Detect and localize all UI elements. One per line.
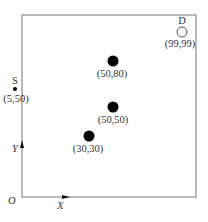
node-50-50 — [108, 102, 119, 113]
node-30-30-label: (30,30) — [73, 143, 104, 155]
destination-coord-label: (99,99) — [165, 38, 196, 50]
node-30-30 — [84, 131, 95, 142]
source-node — [13, 87, 17, 91]
origin-label: O — [8, 195, 16, 206]
y-axis-label: Y — [12, 143, 19, 154]
node-50-50-label: (50,50) — [98, 114, 129, 126]
x-axis-label: X — [56, 200, 64, 211]
source-label: S — [12, 75, 18, 86]
destination-node — [177, 27, 187, 37]
destination-label: D — [178, 15, 186, 26]
node-50-80-label: (50,80) — [97, 68, 128, 80]
source-coord-label: (5,50) — [3, 93, 29, 105]
y-axis-arrow-icon — [20, 140, 24, 148]
x-axis-arrow-icon — [62, 195, 70, 199]
coordinate-diagram: O X Y S (5,50) D (99,99) (50,80) (50,50)… — [0, 0, 208, 222]
node-50-80 — [108, 56, 119, 67]
